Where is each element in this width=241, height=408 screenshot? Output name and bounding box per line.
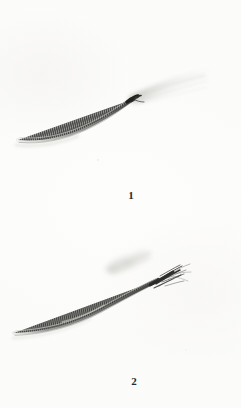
scan-speck	[185, 349, 186, 350]
figure-label-2: 2	[124, 376, 144, 387]
figure-label-1: 1	[121, 190, 141, 201]
figure-2-detached-fragment	[101, 246, 156, 277]
figure-2-shaft	[0, 253, 171, 356]
figure-2	[0, 0, 241, 408]
figure-2-bristle-tip	[150, 264, 191, 288]
specimen-plate: 1 2	[0, 0, 241, 408]
